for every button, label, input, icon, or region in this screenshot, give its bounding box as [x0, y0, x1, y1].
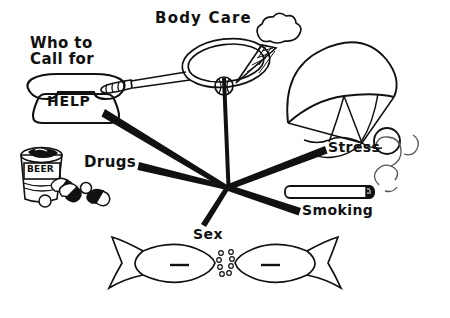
- fish-right-tail: [307, 237, 341, 288]
- label-beer: BEER: [27, 165, 54, 175]
- cigarette-body: [285, 186, 374, 198]
- cigarette-ember: [366, 186, 374, 198]
- fish-right-body: [235, 244, 315, 282]
- spoke-help: [102, 109, 229, 191]
- ice-cream-scoops: [257, 13, 301, 43]
- cigarette-illustration: [285, 186, 374, 198]
- label-who-to-call-for: Who to Call for: [30, 36, 94, 68]
- label-smoking: Smoking: [302, 203, 373, 218]
- label-stress: Stress: [328, 140, 380, 155]
- fish-left-tail: [109, 237, 143, 288]
- beer-can-illustration: [21, 148, 62, 203]
- label-help: HELP: [47, 94, 91, 109]
- parachute-gore-lines: [329, 94, 378, 142]
- fish-kiss-bubbles: [217, 250, 235, 277]
- racket-shaft: [131, 72, 190, 88]
- parachute-suspension-lines: [288, 96, 394, 143]
- ice-cream-cone-hatch: [247, 45, 275, 73]
- tennis-racket-illustration: [101, 34, 273, 95]
- smoke-wisp-1: [374, 165, 397, 185]
- spoke-drugs: [138, 162, 229, 190]
- smoke-wisp-3: [404, 135, 418, 155]
- smoke-wisp-4: [385, 187, 397, 192]
- label-body-care: Body Care: [155, 11, 252, 27]
- pill-tablet-1: [39, 195, 51, 207]
- spoke-stress: [228, 146, 328, 190]
- pill-tablet-2: [81, 183, 92, 194]
- label-sex: Sex: [193, 227, 223, 242]
- poster-canvas: Body Care Who to Call for HELP Drugs Str…: [0, 0, 450, 318]
- spoke-sex: [201, 186, 230, 227]
- label-who-to-call-line-2: Call for: [30, 52, 94, 68]
- pill-capsule-2: [59, 183, 81, 201]
- smoke-wisp-illustration: [374, 135, 418, 192]
- fish-left-body: [135, 244, 215, 282]
- pills-illustration: [39, 178, 110, 207]
- label-drugs: Drugs: [84, 155, 136, 171]
- kissing-fish-illustration: [109, 237, 341, 288]
